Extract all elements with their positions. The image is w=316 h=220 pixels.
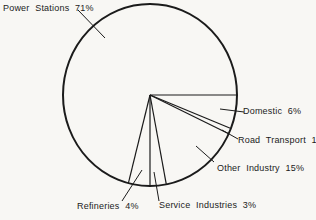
slice-boundary-road-transport: [150, 95, 231, 129]
slice-label-road-transport: Road Transport 1%: [238, 135, 316, 145]
slice-label-domestic: Domestic 6%: [243, 106, 301, 116]
leader-line-domestic: [220, 109, 244, 112]
slice-label-refineries: Refineries 4%: [77, 201, 139, 211]
slice-boundary-power-stations: [128, 95, 150, 183]
pie-chart-figure: Power Stations 71% Domestic 6% Road Tran…: [0, 0, 316, 220]
slice-label-power-stations: Power Stations 71%: [3, 3, 94, 13]
slice-boundary-other-industry: [150, 95, 229, 134]
leader-line-power-stations: [78, 10, 105, 38]
leader-line-other-industry: [196, 146, 214, 162]
slice-label-other-industry: Other Industry 15%: [217, 163, 304, 173]
slice-boundary-service-industries: [150, 95, 166, 184]
slice-label-service-industries: Service Industries 3%: [159, 200, 256, 210]
